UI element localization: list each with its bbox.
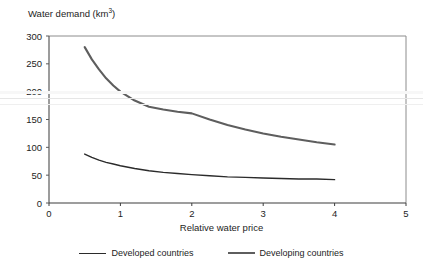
x-axis-tick-label: 0	[46, 208, 51, 219]
legend-entry: Developing countries	[228, 248, 344, 258]
x-axis-title-text: Relative water price	[180, 222, 263, 233]
y-axis-tick-label: 0	[37, 198, 42, 209]
y-axis-tick-label: 50	[31, 170, 42, 181]
x-axis-tick-label: 3	[261, 208, 266, 219]
legend-color-swatch	[79, 253, 106, 254]
series-line	[85, 47, 335, 144]
legend-label: Developed countries	[111, 248, 193, 258]
y-axis-tick-label: 200	[26, 86, 42, 97]
chart-legend: Developed countriesDeveloping countries	[0, 248, 423, 258]
x-axis-ticks: 012345	[46, 203, 408, 219]
legend-color-swatch	[228, 252, 255, 254]
series-line	[85, 154, 335, 180]
x-axis-tick-label: 4	[332, 208, 337, 219]
chart-figure: Water demand (km3) 050100150200250300 01…	[0, 0, 423, 273]
data-series-layer	[85, 47, 335, 179]
x-axis-tick-label: 5	[403, 208, 408, 219]
legend-entry: Developed countries	[79, 248, 193, 258]
y-axis-tick-label: 250	[26, 58, 42, 69]
legend-label: Developing countries	[260, 248, 344, 258]
y-axis-ticks: 050100150200250300	[26, 31, 49, 209]
x-axis-tick-label: 1	[118, 208, 123, 219]
y-axis-tick-label: 150	[26, 114, 42, 125]
y-axis-tick-label: 100	[26, 142, 42, 153]
x-axis-tick-label: 2	[189, 208, 194, 219]
axis-frame	[49, 36, 406, 203]
y-axis-tick-label: 300	[26, 31, 42, 42]
x-axis-title: Relative water price	[0, 222, 423, 233]
